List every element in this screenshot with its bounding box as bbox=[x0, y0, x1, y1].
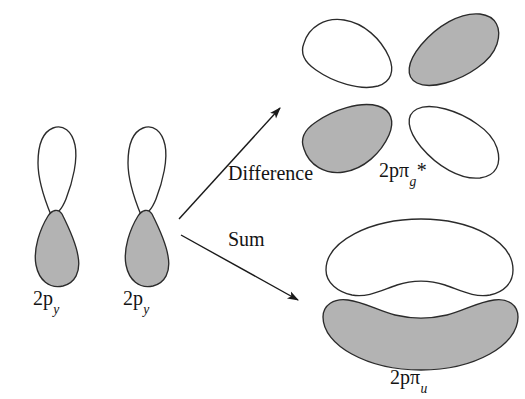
antibonding-label-pi: π bbox=[399, 159, 409, 181]
difference-label: Difference bbox=[228, 163, 313, 183]
right-2py-bottom-lobe bbox=[125, 210, 168, 286]
antibonding-pi-g-star-orbital bbox=[303, 14, 499, 178]
left-2py-orbital bbox=[35, 127, 78, 287]
bonding-label-pi: π bbox=[410, 366, 420, 388]
pi-u-lobe-top bbox=[326, 219, 513, 296]
right-2py-label-subscript: y bbox=[143, 302, 149, 317]
bonding-orbital-label: 2pπu bbox=[390, 367, 427, 392]
right-2py-label-text: 2p bbox=[123, 287, 143, 309]
left-2py-top-lobe bbox=[38, 127, 76, 215]
antibonding-label-subscript: g bbox=[409, 174, 416, 189]
bonding-pi-u-orbital bbox=[323, 219, 518, 370]
left-2py-label: 2py bbox=[33, 288, 59, 313]
bonding-label-subscript: u bbox=[420, 381, 427, 396]
sum-label: Sum bbox=[228, 229, 265, 249]
pi-u-lobe-bottom bbox=[323, 300, 518, 370]
orbital-diagram: 2py 2py Difference Sum 2pπg* 2pπu bbox=[0, 0, 525, 399]
right-2py-top-lobe bbox=[128, 127, 166, 215]
diagram-canvas bbox=[0, 0, 525, 399]
left-2py-label-subscript: y bbox=[53, 302, 59, 317]
antibonding-label-prefix: 2p bbox=[379, 159, 399, 181]
bonding-label-prefix: 2p bbox=[390, 366, 410, 388]
antibonding-orbital-label: 2pπg* bbox=[379, 160, 426, 185]
right-2py-orbital bbox=[125, 127, 168, 287]
left-2py-label-text: 2p bbox=[33, 287, 53, 309]
operation-arrows bbox=[179, 108, 298, 300]
pi-g-lobe-top-left bbox=[303, 19, 392, 87]
pi-g-lobe-top-right bbox=[409, 14, 499, 86]
antibonding-label-star: * bbox=[417, 159, 427, 181]
right-2py-label: 2py bbox=[123, 288, 149, 313]
left-2py-bottom-lobe bbox=[35, 210, 78, 286]
